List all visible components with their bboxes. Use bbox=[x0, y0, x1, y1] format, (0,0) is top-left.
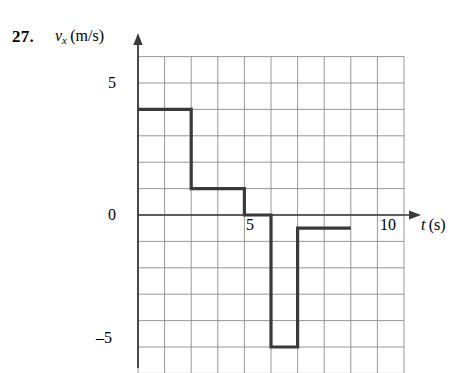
y-tick-label-0: 0 bbox=[108, 206, 116, 224]
x-tick-label-10: 10 bbox=[380, 216, 396, 234]
y-tick-label-minus-5: –5 bbox=[96, 329, 112, 347]
x-axis-units: (s) bbox=[429, 216, 446, 233]
y-axis-arrowhead bbox=[133, 33, 142, 45]
x-axis-arrowhead bbox=[409, 210, 421, 219]
x-tick-label-5: 5 bbox=[246, 216, 254, 234]
y-axis-units: (m/s) bbox=[70, 27, 104, 44]
x-axis-label: t (s) bbox=[421, 216, 446, 234]
plot-area bbox=[0, 0, 471, 373]
y-tick-label-5: 5 bbox=[108, 74, 116, 92]
x-axis-symbol: t bbox=[421, 216, 425, 233]
problem-number: 27. bbox=[12, 27, 34, 47]
y-axis-label: vx (m/s) bbox=[55, 27, 104, 46]
velocity-time-figure: 27. vx (m/s) t (s) 5 0 –5 5 10 bbox=[0, 0, 471, 373]
y-axis-subscript: x bbox=[62, 34, 67, 46]
